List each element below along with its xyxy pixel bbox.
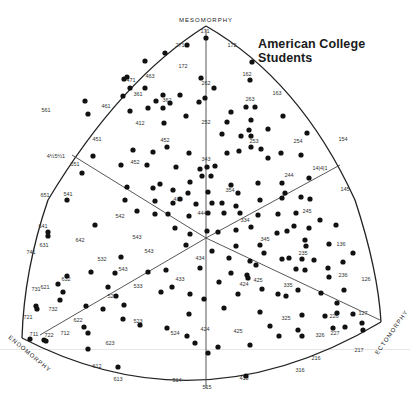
svg-text:514: 514: [172, 377, 181, 383]
svg-text:461: 461: [101, 103, 110, 109]
svg-text:245: 245: [302, 208, 311, 214]
svg-text:145: 145: [340, 186, 349, 192]
svg-text:741: 741: [26, 249, 35, 255]
svg-text:262: 262: [201, 80, 210, 86]
svg-text:541: 541: [63, 191, 72, 197]
svg-text:235: 235: [298, 250, 307, 256]
svg-text:172: 172: [178, 63, 187, 69]
svg-text:532: 532: [97, 256, 106, 262]
svg-text:524: 524: [170, 330, 179, 336]
svg-text:561: 561: [41, 107, 50, 113]
svg-text:254: 254: [293, 138, 302, 144]
svg-text:543: 543: [132, 234, 141, 240]
svg-text:354: 354: [225, 187, 234, 193]
svg-text:651: 651: [40, 192, 49, 198]
svg-text:154: 154: [338, 136, 347, 142]
svg-text:412: 412: [135, 120, 144, 126]
svg-text:452: 452: [130, 159, 139, 165]
svg-text:623: 623: [105, 340, 114, 346]
svg-text:343: 343: [201, 156, 210, 162]
svg-text:712: 712: [60, 330, 69, 336]
svg-text:425: 425: [233, 328, 242, 334]
svg-text:334: 334: [240, 217, 249, 223]
svg-text:253: 253: [249, 138, 258, 144]
svg-text:424: 424: [200, 326, 209, 332]
svg-text:451: 451: [92, 136, 101, 142]
svg-text:463: 463: [145, 73, 154, 79]
svg-text:444: 444: [197, 210, 206, 216]
svg-text:621: 621: [40, 284, 49, 290]
svg-text:434: 434: [195, 255, 204, 261]
data-points: [27, 35, 365, 378]
svg-text:216: 216: [311, 355, 320, 361]
svg-text:271: 271: [175, 42, 184, 48]
svg-text:433: 433: [175, 276, 184, 282]
svg-text:425: 425: [253, 277, 262, 283]
svg-text:641: 641: [38, 223, 47, 229]
somatotype-labels: 171271172 172463471 361162163 262263362 …: [23, 28, 370, 390]
svg-text:4½5½1: 4½5½1: [47, 153, 65, 159]
svg-text:263: 263: [245, 96, 254, 102]
svg-text:252: 252: [201, 119, 210, 125]
svg-text:244: 244: [284, 172, 293, 178]
svg-text:424: 424: [239, 281, 248, 287]
svg-text:136: 136: [336, 241, 345, 247]
svg-text:533: 533: [133, 283, 142, 289]
svg-text:171: 171: [200, 28, 209, 34]
svg-text:316: 316: [295, 367, 304, 373]
vertex-label-mesomorphy: MESOMORPHY: [179, 17, 233, 23]
svg-text:325: 325: [281, 315, 290, 321]
svg-text:127: 127: [358, 310, 367, 316]
svg-text:326: 326: [315, 332, 324, 338]
svg-text:631: 631: [39, 242, 48, 248]
svg-text:452: 452: [160, 137, 169, 143]
svg-text:14|4|1: 14|4|1: [312, 165, 327, 171]
svg-text:732: 732: [48, 306, 57, 312]
svg-text:731: 731: [31, 286, 40, 292]
svg-text:227: 227: [330, 330, 339, 336]
svg-text:622: 622: [73, 317, 82, 323]
svg-text:361: 361: [133, 91, 142, 97]
svg-text:335: 335: [283, 282, 292, 288]
svg-text:642: 642: [75, 237, 84, 243]
svg-text:126: 126: [361, 276, 370, 282]
svg-text:217: 217: [354, 347, 363, 353]
svg-text:543: 543: [118, 266, 127, 272]
svg-text:613: 613: [113, 376, 122, 382]
chart-title: American College Students: [258, 37, 410, 65]
svg-text:721: 721: [23, 314, 32, 320]
svg-text:711: 711: [30, 331, 39, 337]
vertex-label-ectomorphy: ECTOMORPHY: [374, 309, 409, 356]
svg-text:345: 345: [260, 236, 269, 242]
svg-text:236: 236: [338, 272, 347, 278]
svg-text:543: 543: [144, 248, 153, 254]
svg-text:515: 515: [202, 384, 211, 390]
svg-text:612: 612: [92, 363, 101, 369]
svg-text:722: 722: [44, 332, 53, 338]
svg-text:551: 551: [70, 161, 79, 167]
svg-text:542: 542: [115, 213, 124, 219]
svg-text:172: 172: [227, 42, 236, 48]
svg-text:162: 162: [242, 71, 251, 77]
svg-text:163: 163: [272, 90, 281, 96]
